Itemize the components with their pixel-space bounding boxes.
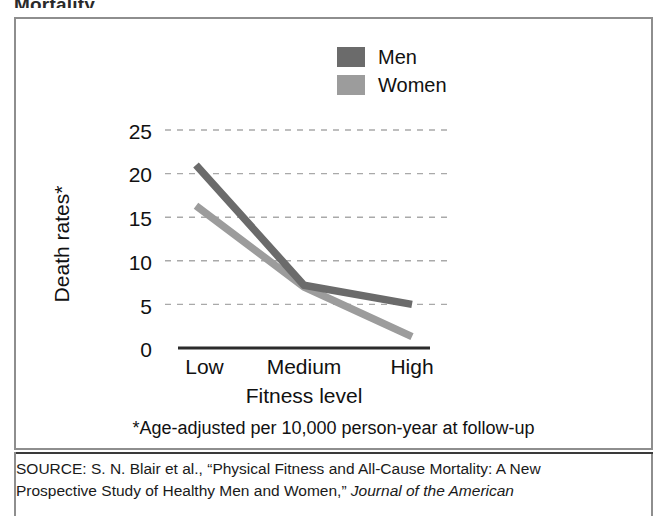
y-tick-25: 25: [108, 121, 152, 142]
figure-title-cropped: Mortality: [14, 0, 444, 8]
y-tick-15: 15: [108, 208, 152, 229]
legend-label-men: Men: [378, 47, 417, 67]
legend-item-women: Women: [337, 71, 447, 99]
legend-swatch-women-icon: [337, 75, 365, 95]
figure-footnote: *Age-adjusted per 10,000 person-year at …: [14, 418, 653, 439]
source-note: SOURCE: S. N. Blair et al., “Physical Fi…: [16, 458, 656, 502]
x-tick-medium: Medium: [249, 356, 359, 377]
x-axis-title: Fitness level: [178, 384, 430, 408]
y-tick-20: 20: [108, 164, 152, 185]
y-tick-5: 5: [108, 296, 152, 317]
source-line-2-text: Prospective Study of Healthy Men and Wom…: [16, 482, 351, 499]
source-journal-name: Journal of the American: [351, 482, 514, 499]
figure-root: Mortality Men Women Death rates* 25 20 1…: [0, 0, 670, 516]
chart-legend: Men Women: [337, 43, 447, 99]
legend-label-women: Women: [378, 75, 447, 95]
source-line-2: Prospective Study of Healthy Men and Wom…: [16, 480, 656, 502]
legend-swatch-men-icon: [337, 47, 365, 67]
x-tick-high: High: [362, 356, 462, 377]
y-tick-0: 0: [108, 339, 152, 360]
y-tick-10: 10: [108, 252, 152, 273]
x-tick-low: Low: [152, 356, 257, 377]
source-divider: [16, 452, 653, 454]
source-line-1: SOURCE: S. N. Blair et al., “Physical Fi…: [16, 458, 656, 480]
legend-item-men: Men: [337, 43, 447, 71]
y-axis-title: Death rates*: [50, 149, 74, 339]
